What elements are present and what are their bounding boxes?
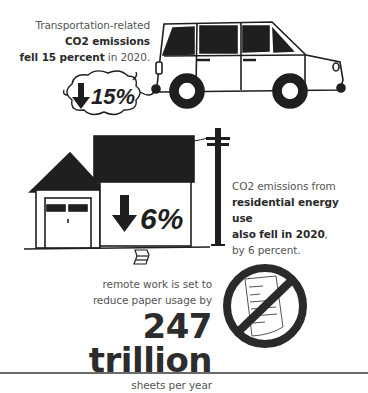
utility-pole-icon — [194, 128, 230, 246]
transport-line-3-rest: in 2020. — [105, 51, 150, 63]
residential-line-1: CO2 emissions from — [232, 178, 362, 194]
transportation-caption: Transportation-related CO2 emissions fel… — [10, 17, 150, 65]
transport-line-3: fell 15 percent in 2020. — [10, 49, 150, 65]
paper-caption: remote work is set to reduce paper usage… — [30, 276, 212, 393]
residential-caption: CO2 emissions from residential energy us… — [232, 178, 362, 258]
residential-percent-badge: 6% — [140, 202, 183, 235]
paper-line-1: remote work is set to — [30, 276, 212, 292]
paper-big-value: 247 trillion — [30, 309, 212, 377]
transport-line-1: Transportation-related — [10, 17, 150, 33]
transport-percent-badge: 15% — [91, 84, 135, 109]
residential-line-3-rest: , — [325, 228, 328, 240]
no-paper-icon — [227, 268, 303, 344]
residential-line-3-bold: also fell in 2020 — [232, 228, 325, 240]
residential-line-2: residential energy use — [232, 194, 362, 226]
transport-line-3-bold: fell 15 percent — [20, 51, 105, 63]
transport-line-2: CO2 emissions — [10, 33, 150, 49]
bottom-divider — [0, 372, 368, 374]
doormat-icon — [134, 250, 149, 264]
residential-line-3: also fell in 2020, — [232, 226, 362, 242]
car-icon — [152, 22, 345, 108]
residential-line-4: by 6 percent. — [232, 242, 362, 258]
